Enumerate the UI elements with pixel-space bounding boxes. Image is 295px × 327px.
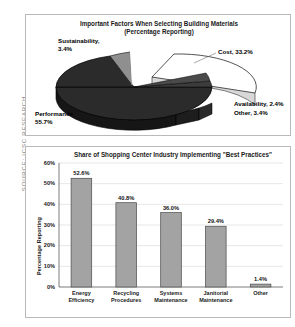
- bar-chart-bar: [250, 284, 271, 287]
- pie-label-performance-line-1: Performance: [35, 110, 73, 118]
- bar-chart-x-tick-line: Janitorial: [192, 290, 240, 297]
- bar-chart-bar: [116, 203, 137, 287]
- bar-chart-bar: [71, 178, 92, 287]
- pie-slice-availability-side: [199, 103, 212, 120]
- figure-root: SOURCE: ICSC RESEARCH Important Factors …: [0, 0, 295, 327]
- bar-chart-x-tick-line: Efficiency: [57, 297, 105, 304]
- bar-chart-y-tick-label: 0%: [37, 284, 55, 290]
- bar-chart-bar: [205, 226, 226, 287]
- pie-label-other: Other, 3.4%: [234, 109, 268, 117]
- bar-chart-value-label: 52.6%: [67, 170, 95, 176]
- bar-chart-panel: Share of Shopping Center Industry Implem…: [25, 146, 291, 318]
- pie-label-sustainability-line-2: 3.4%: [58, 45, 100, 53]
- bar-chart-bar: [161, 213, 182, 287]
- bar-chart-y-tick-label: 20%: [37, 242, 55, 248]
- bar-chart-value-label: 1.4%: [247, 276, 275, 282]
- bar-chart-x-tick-line: Other: [237, 290, 285, 297]
- bar-chart-x-tick-line: Recycling: [102, 290, 150, 297]
- bar-chart-value-label: 40.8%: [112, 195, 140, 201]
- pie-chart-panel: Important Factors When Selecting Buildin…: [25, 14, 291, 136]
- bar-chart-y-tick-label: 50%: [37, 180, 55, 186]
- bar-chart-y-tick-label: 10%: [37, 263, 55, 269]
- bar-chart-x-tick-label: RecyclingProcedures: [102, 290, 150, 304]
- bar-chart-x-tick-line: Maintenance: [147, 297, 195, 304]
- pie-label-availability: Availability, 2.4%: [234, 100, 284, 108]
- pie-label-performance: Performance 55.7%: [35, 110, 73, 125]
- bar-chart-x-tick-line: Maintenance: [192, 297, 240, 304]
- bar-chart-x-tick-line: Energy: [57, 290, 105, 297]
- bar-chart-y-tick-label: 60%: [37, 160, 55, 166]
- bar-chart-x-tick-label: EnergyEfficiency: [57, 290, 105, 304]
- bar-chart-value-label: 29.4%: [202, 218, 230, 224]
- pie-label-performance-line-2: 55.7%: [35, 118, 73, 126]
- bar-chart-x-tick-line: Procedures: [102, 297, 150, 304]
- bar-chart-x-tick-line: Systems: [147, 290, 195, 297]
- bar-chart-x-tick-label: SystemsMaintenance: [147, 290, 195, 304]
- bar-chart-x-tick-label: JanitorialMaintenance: [192, 290, 240, 304]
- bar-chart-y-tick-label: 30%: [37, 222, 55, 228]
- pie-label-sustainability-line-1: Sustainability,: [58, 37, 100, 45]
- pie-label-cost: Cost, 33.2%: [218, 48, 253, 56]
- bar-chart-y-tick-label: 40%: [37, 201, 55, 207]
- pie-label-sustainability: Sustainability, 3.4%: [58, 37, 100, 52]
- bar-chart-value-label: 36.0%: [157, 205, 185, 211]
- bar-chart-x-tick-label: Other: [237, 290, 285, 297]
